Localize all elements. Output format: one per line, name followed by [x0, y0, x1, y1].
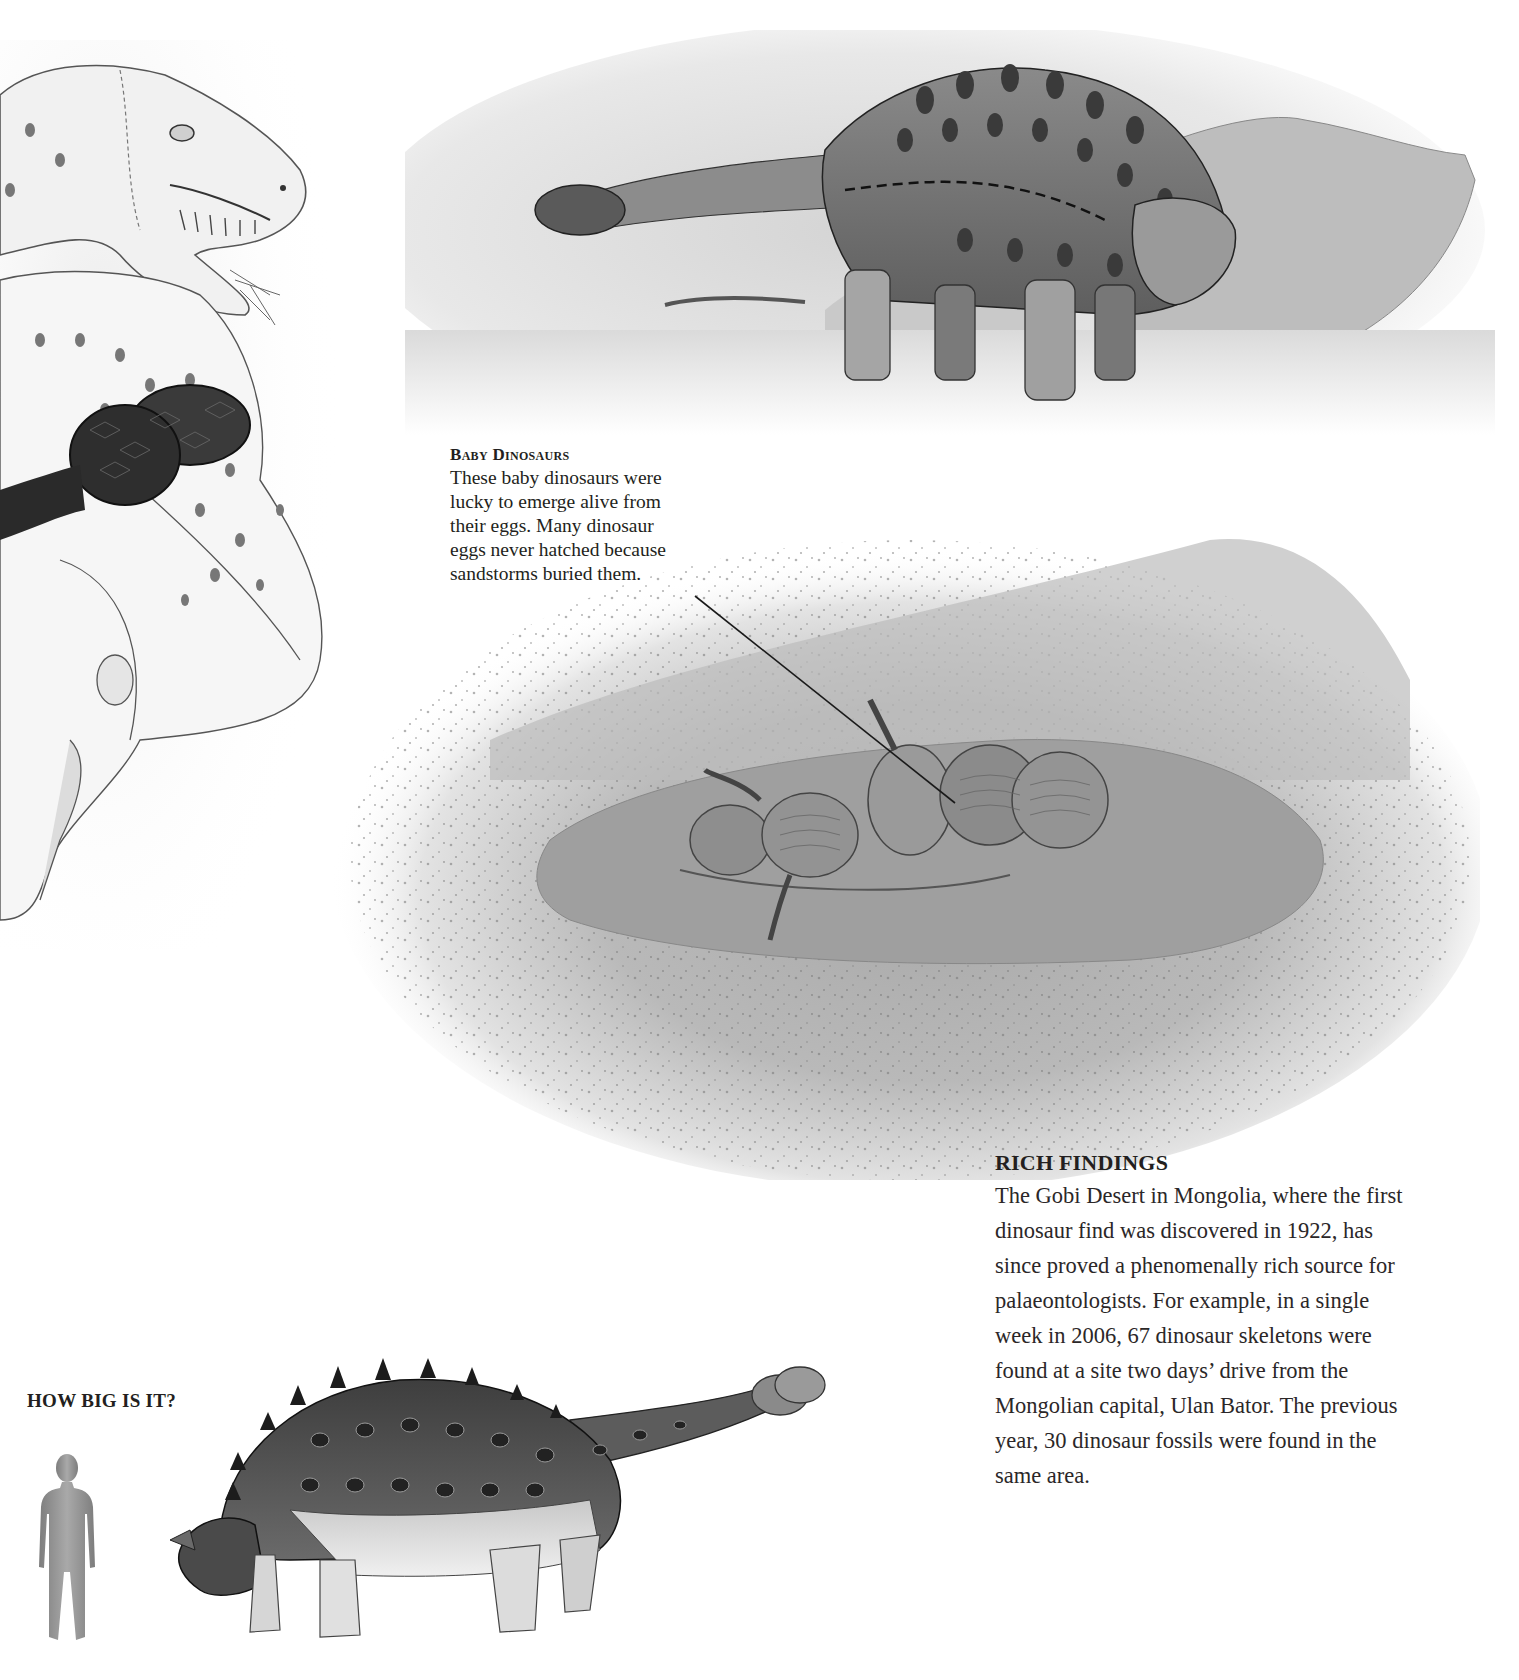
trex-sketch-illustration [0, 40, 340, 950]
ankylosaur-landscape-illustration [405, 30, 1495, 435]
baby-dinosaurs-title: Baby Dinosaurs [450, 444, 710, 466]
human-silhouette-icon [32, 1452, 102, 1647]
rich-findings-title: RICH FINDINGS [995, 1148, 1495, 1178]
how-big-title: HOW BIG IS IT? [27, 1390, 176, 1412]
baby-dinosaurs-nest-illustration [310, 480, 1480, 1180]
rich-findings-text: The Gobi Desert in Mongolia, where the f… [995, 1178, 1495, 1493]
rich-findings-section: RICH FINDINGS The Gobi Desert in Mongoli… [995, 1148, 1495, 1493]
ankylosaur-side-view-illustration [170, 1350, 860, 1650]
